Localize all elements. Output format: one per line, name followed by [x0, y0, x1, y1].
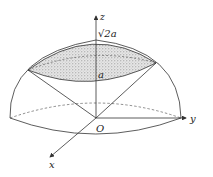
y-axis-label: y: [189, 113, 196, 124]
spherical-cap: [28, 44, 156, 81]
hemisphere-diagram: z √2a a O y x: [0, 0, 213, 177]
cap-label: a: [98, 69, 104, 80]
origin-label: O: [96, 123, 104, 134]
x-axis: [50, 118, 96, 157]
equator-back: [10, 103, 181, 118]
height-label: √2a: [98, 28, 117, 39]
x-axis-label: x: [49, 159, 55, 170]
z-axis-label: z: [99, 12, 105, 22]
